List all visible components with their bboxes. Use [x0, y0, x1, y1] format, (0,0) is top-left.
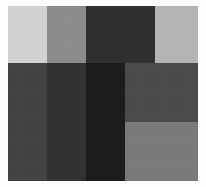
color-block-r3c2 [47, 122, 86, 181]
color-block-r2c1 [8, 63, 47, 122]
color-block-r1c5 [155, 6, 198, 63]
color-block-r3c3 [86, 122, 125, 181]
color-block-r3c4 [125, 122, 198, 181]
color-block-r1c3 [86, 6, 155, 63]
color-block-r2c2 [47, 63, 86, 122]
color-block-r3c1 [8, 122, 47, 181]
color-block-r2c4 [125, 63, 198, 122]
pattern-canvas [0, 0, 206, 187]
color-block-r1c2 [47, 6, 86, 63]
color-block-r1c1 [8, 6, 47, 63]
color-block-r2c3 [86, 63, 125, 122]
